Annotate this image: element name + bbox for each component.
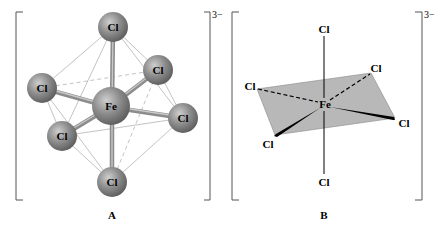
atom-cl-upper-right-b: Cl [371,62,382,74]
atom-cl-left-a: Cl [27,73,57,103]
svg-text:Cl: Cl [57,130,68,142]
atom-cl-upper-right-a: Cl [143,55,173,85]
atom-cl-bottom-b: Cl [319,176,330,188]
caption-a: A [108,209,116,221]
svg-text:Cl: Cl [37,82,48,94]
atom-cl-lower-left-a: Cl [47,121,77,151]
atom-cl-bottom-a: Cl [97,167,127,197]
charge-a: 3− [212,9,223,20]
svg-text:Cl: Cl [178,112,189,124]
left-bracket-a [16,12,23,200]
left-bracket-b [232,12,239,200]
right-bracket-b [415,12,422,200]
atom-cl-right-b: Cl [399,117,410,129]
atom-fe-b: Fe [319,98,331,110]
atom-cl-left-b: Cl [245,80,256,92]
fecl6-diagram: 3− [0,0,443,233]
svg-text:Cl: Cl [153,64,164,76]
svg-text:Cl: Cl [107,176,118,188]
svg-text:Fe: Fe [105,100,117,112]
atom-cl-lower-left-b: Cl [263,138,274,150]
right-bracket-a [204,12,210,200]
atom-cl-right-a: Cl [168,103,198,133]
atom-fe-a: Fe [92,87,130,125]
atom-cl-top-b: Cl [319,23,330,35]
panel-a: 3− [16,9,223,221]
panel-b: 3− Cl Cl Cl Fe Cl Cl Cl B [232,9,435,221]
atom-cl-top-a: Cl [98,12,128,42]
charge-b: 3− [424,9,435,20]
caption-b: B [320,209,328,221]
svg-text:Cl: Cl [108,21,119,33]
